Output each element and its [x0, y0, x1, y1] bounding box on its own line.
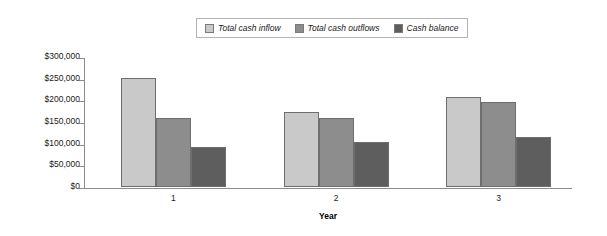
- y-axis-tick-label: $100,000: [45, 139, 80, 148]
- x-axis-tick-label-2: 2: [284, 194, 389, 203]
- y-axis-tick-label: $200,000: [45, 95, 80, 104]
- y-axis-tick: $300,000: [84, 58, 85, 59]
- bar-total-cash-outflows-year-3: [481, 102, 516, 187]
- legend-swatch-total-cash-outflows: [295, 24, 304, 33]
- y-axis-tick: $150,000: [84, 123, 85, 124]
- y-axis-tick-label: $250,000: [45, 74, 80, 83]
- y-axis-tick: $250,000: [84, 80, 85, 81]
- legend-label-total-cash-outflows: Total cash outflows: [308, 24, 380, 33]
- y-axis-tick-label: $0: [71, 182, 80, 191]
- legend-swatch-total-cash-inflow: [205, 24, 214, 33]
- y-axis-tick-label: $300,000: [45, 52, 80, 61]
- cash-flow-bar-chart: Total cash inflow Total cash outflows Ca…: [0, 0, 607, 236]
- y-axis-tick: $0: [84, 188, 85, 189]
- legend-item-total-cash-inflow: Total cash inflow: [205, 24, 281, 33]
- legend-label-cash-balance: Cash balance: [407, 24, 459, 33]
- bar-total-cash-outflows-year-1: [156, 118, 191, 187]
- bar-group-year-3: [446, 57, 551, 187]
- x-axis-line: [84, 188, 572, 189]
- y-axis-tick-label: $50,000: [49, 160, 80, 169]
- x-axis-title: Year: [84, 212, 572, 221]
- legend-item-total-cash-outflows: Total cash outflows: [295, 24, 380, 33]
- bar-total-cash-inflow-year-3: [446, 97, 481, 187]
- bar-cash-balance-year-3: [516, 137, 551, 187]
- y-axis-tick: $50,000: [84, 166, 85, 167]
- x-axis-tick-label-1: 1: [121, 194, 226, 203]
- legend-item-cash-balance: Cash balance: [394, 24, 459, 33]
- bar-cash-balance-year-2: [354, 142, 389, 187]
- legend-label-total-cash-inflow: Total cash inflow: [218, 24, 281, 33]
- y-axis-tick: $100,000: [84, 145, 85, 146]
- bar-total-cash-outflows-year-2: [319, 118, 354, 187]
- x-axis-tick-label-3: 3: [446, 194, 551, 203]
- bar-total-cash-inflow-year-2: [284, 112, 319, 187]
- bar-cash-balance-year-1: [191, 147, 226, 187]
- bar-group-year-2: [284, 57, 389, 187]
- bar-group-year-1: [121, 57, 226, 187]
- y-axis-tick-label: $150,000: [45, 117, 80, 126]
- chart-legend: Total cash inflow Total cash outflows Ca…: [196, 18, 468, 38]
- bar-total-cash-inflow-year-1: [121, 78, 156, 187]
- y-axis-tick: $200,000: [84, 101, 85, 102]
- plot-area: $300,000$250,000$200,000$150,000$100,000…: [84, 58, 572, 188]
- legend-swatch-cash-balance: [394, 24, 403, 33]
